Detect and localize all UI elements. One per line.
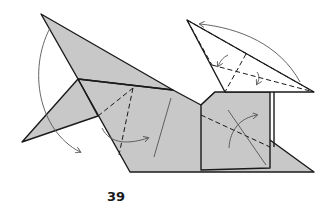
origami-diagram [0, 0, 332, 212]
left-top-flap [41, 14, 173, 90]
square-flap [201, 92, 270, 170]
step-number: 39 [104, 189, 128, 204]
body-shape [78, 79, 314, 172]
